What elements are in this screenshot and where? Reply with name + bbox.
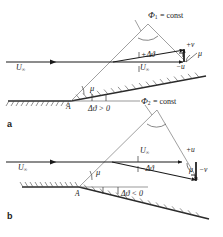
panel-b-velocity-mach-angle-label: μ [189,166,193,174]
panel-b-right-angle-mark [191,175,195,179]
figure-vector-layer [0,0,223,237]
panel-a-freestream-triangle-label: U∞ [140,64,149,73]
panel-b-index-label: b [7,212,13,221]
panel-b-freestream-upstream-label: U∞ [18,164,27,173]
panel-a-characteristic-label: Φ1 = const [148,11,183,21]
panel-b-deflection-condition-label: Δϑ < 0 [121,190,143,198]
panel-a-wall-horizontal [6,101,71,106]
panel-a-velocity-mach-arc [186,55,190,62]
panel-b-delta-theta-label: −Δϑ [140,165,154,173]
panel-a-mach-angle-arc [82,86,84,95]
panel-a-index-label: a [7,120,12,129]
panel-a-perturbation-u-label: −u [176,63,185,71]
panel-b-graphics [6,105,209,219]
panel-b-freestream-triangle-label: U∞ [140,147,149,156]
panel-a-freestream-upstream-label: U∞ [16,64,25,73]
panel-b-wall-horizontal [20,182,79,187]
panel-b-vertex-label: A [75,190,80,198]
panel-b-perturbation-u-label: +u [186,146,195,154]
panel-a-mach-line-ext [135,20,141,31]
figure-canvas: Φ1 = const U∞ U∞ +Δϑ +v −u μ μ A Δϑ > 0 … [0,0,223,237]
panel-b-perturbation-v-label: −v [199,166,207,174]
panel-a-vertex-label: A [66,103,71,111]
panel-b-wall-ramp [79,185,209,219]
panel-a-velocity-mach-angle-label: μ [198,50,202,58]
panel-a-apex-angle-arc [138,36,158,40]
panel-a-delta-theta-label: +Δϑ [141,51,155,59]
panel-b-characteristic-label: Φ2 = const [141,97,176,107]
panel-a-perturbation-v-label: +v [186,41,194,49]
panel-b-mach-angle-label: μ [96,168,100,177]
panel-a-mach-angle-label: μ [90,84,94,93]
panel-a-right-angle-mark [179,53,183,57]
panel-a-deflection-condition-label: Δϑ > 0 [88,105,110,113]
panel-b-apex-angle-arc [147,124,166,127]
